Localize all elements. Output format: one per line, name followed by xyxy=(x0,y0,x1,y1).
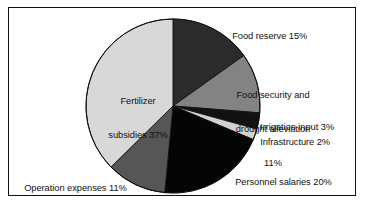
pie-label-food-reserve-text: Food reserve 15% xyxy=(232,31,307,41)
pie-label-fertilizer-subsidies-line2: subsidies 37% xyxy=(98,130,178,141)
pie-label-infrastructure-text: Infrastructure 2% xyxy=(260,137,330,147)
pie-label-personnel-salaries: Personnel salaries 20% xyxy=(225,166,332,200)
pie-label-fertilizer-subsidies-line1: Fertilizer xyxy=(98,96,178,107)
pie-label-fertilizer-subsidies: Fertilizer subsidies 37% xyxy=(98,73,178,164)
pie-label-food-security-line1: Food security and xyxy=(225,90,321,101)
pie-label-operation-expenses: Operation expenses 11% xyxy=(14,172,127,206)
pie-label-food-reserve: Food reserve 15% xyxy=(222,20,307,54)
pie-label-infrastructure: Infrastructure 2% xyxy=(250,126,330,160)
pie-label-operation-expenses-text: Operation expenses 11% xyxy=(24,183,127,193)
pie-chart-screenshot: Food reserve 15% Food security and droug… xyxy=(0,0,365,206)
pie-label-personnel-salaries-text: Personnel salaries 20% xyxy=(235,177,332,187)
